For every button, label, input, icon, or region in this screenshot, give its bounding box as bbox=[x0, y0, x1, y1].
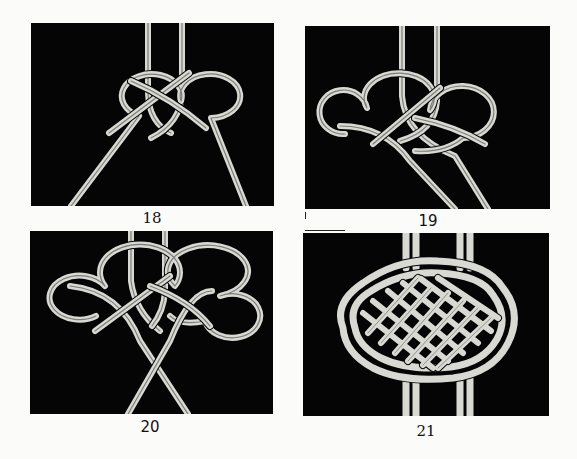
figure-18-caption: 18 bbox=[112, 209, 192, 227]
figure-21-caption: 21 bbox=[386, 422, 466, 440]
knot-step-18-illustration bbox=[31, 23, 274, 206]
figure-20-caption: 20 bbox=[110, 418, 190, 436]
figure-21-photo bbox=[303, 233, 549, 416]
figure-19-caption: 19 bbox=[388, 212, 468, 230]
scan-artifact bbox=[305, 230, 345, 231]
figure-20-photo bbox=[30, 231, 273, 414]
knot-step-19-illustration bbox=[305, 26, 550, 209]
knot-step-20-illustration bbox=[30, 231, 273, 414]
knot-step-21-illustration bbox=[303, 233, 549, 416]
scan-artifact bbox=[305, 212, 306, 219]
figure-19-photo bbox=[305, 26, 550, 209]
figure-18-photo bbox=[31, 23, 274, 206]
